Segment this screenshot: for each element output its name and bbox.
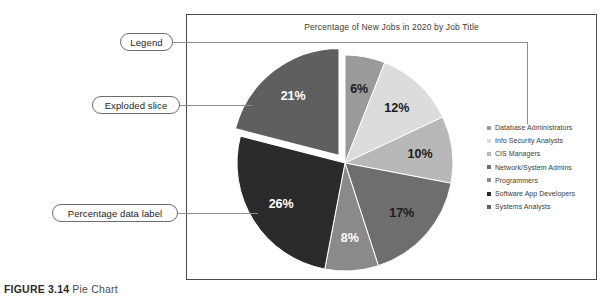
leader-legend-vertical	[527, 42, 528, 124]
pie-data-label: 6%	[350, 82, 368, 96]
legend-item-label: Network/System Admins	[495, 164, 572, 171]
legend-swatch-icon	[487, 192, 491, 196]
legend-swatch-icon	[487, 165, 491, 169]
pie-data-label: 26%	[269, 197, 294, 211]
pie-data-label: 21%	[281, 89, 306, 103]
legend-item-label: Info Security Analysts	[495, 137, 563, 144]
legend-item[interactable]: CIS Managers	[487, 147, 595, 160]
legend-item[interactable]: Programmers	[487, 174, 595, 187]
legend-swatch-icon	[487, 152, 491, 156]
legend-item-label: Programmers	[495, 177, 538, 184]
leader-exploded-horizontal	[180, 105, 252, 106]
legend-item-label: Database Administrators	[495, 124, 572, 131]
legend-swatch-icon	[487, 205, 491, 209]
callout-percentage-data-label: Percentage data label	[52, 204, 178, 222]
callout-exploded-slice: Exploded slice	[92, 96, 180, 114]
legend-swatch-icon	[487, 139, 491, 143]
legend-swatch-icon	[487, 126, 491, 130]
legend-item[interactable]: Info Security Analysts	[487, 134, 595, 147]
legend-item[interactable]: Database Administrators	[487, 121, 595, 134]
figure-page: Percentage of New Jobs in 2020 by Job Ti…	[0, 0, 606, 307]
chart-legend: Database AdministratorsInfo Security Ana…	[487, 121, 595, 213]
figure-caption-label: FIGURE 3.14	[4, 283, 69, 295]
pie-data-label: 12%	[384, 101, 409, 115]
figure-caption-text: Pie Chart	[72, 283, 118, 295]
legend-item-label: Systems Analysts	[495, 203, 551, 210]
legend-swatch-icon	[487, 178, 491, 182]
leader-datalabel-horizontal	[178, 213, 258, 214]
leader-legend-horizontal	[173, 42, 528, 43]
figure-caption: FIGURE 3.14 Pie Chart	[4, 283, 118, 295]
legend-item[interactable]: Network/System Admins	[487, 161, 595, 174]
legend-item-label: CIS Managers	[495, 150, 540, 157]
legend-item-label: Software App Developers	[495, 190, 575, 197]
callout-legend: Legend	[120, 33, 173, 51]
legend-item[interactable]: Software App Developers	[487, 187, 595, 200]
pie-data-label: 10%	[407, 147, 432, 161]
legend-item[interactable]: Systems Analysts	[487, 200, 595, 213]
pie-data-label: 8%	[341, 231, 359, 245]
pie-data-label: 17%	[389, 206, 414, 220]
